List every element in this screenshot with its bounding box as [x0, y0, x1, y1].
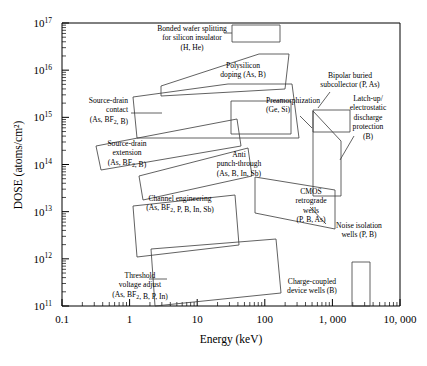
- implantation-dose-energy-chart: 1011101210131014101510161017 0.11101001,…: [0, 0, 427, 366]
- region-label-source-drain-extension: Source-drainextension(As, BF2, B): [107, 139, 146, 169]
- x-tick-label: 0.1: [55, 313, 69, 325]
- x-tick-label: 100: [257, 313, 274, 325]
- x-tick-label: 1: [127, 313, 133, 325]
- x-tick-label: 10, 000: [384, 313, 418, 325]
- chart-svg: 1011101210131014101510161017 0.11101001,…: [0, 0, 427, 366]
- x-tick-label: 1, 000: [319, 313, 347, 325]
- x-axis-title: Energy (keV): [200, 333, 263, 346]
- region-label-noise-isolation-wells: Noise isolationwells (P, B): [336, 221, 382, 239]
- region-label-bipolar-buried-subcollector: Bipolar buriedsubcollector (P, As): [320, 71, 380, 89]
- region-label-polysilicon-doping: Polysilicondoping (As, B): [220, 61, 266, 79]
- y-axis-title: DOSE (atoms/cm²): [12, 120, 25, 209]
- region-label-charge-coupled-device-wells: Charge-coupleddevice wells (B): [287, 277, 337, 295]
- x-tick-label: 10: [192, 313, 204, 325]
